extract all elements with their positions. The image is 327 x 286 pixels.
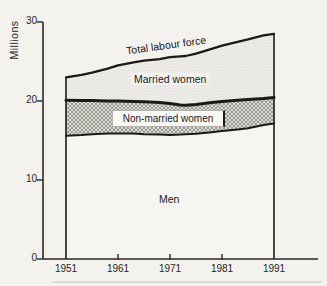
x-tick-label-1951: 1951: [48, 263, 84, 274]
y-tick-label-20: 20: [6, 94, 37, 105]
labour-force-chart: Millions 30 20 10 0 1951 1961 1971 1981 …: [0, 0, 327, 286]
y-tick-label-0: 0: [6, 252, 37, 263]
y-tick-label-30: 30: [6, 15, 37, 26]
x-tick-label-1991: 1991: [256, 263, 292, 274]
series-label-married-women: Married women: [131, 73, 209, 85]
x-tick-label-1971: 1971: [152, 263, 188, 274]
y-tick-label-10: 10: [6, 173, 37, 184]
x-tick-label-1981: 1981: [204, 263, 240, 274]
series-label-non-married-women: Non-married women: [112, 110, 225, 127]
series-label-men: Men: [159, 193, 179, 205]
scan-artifact-smudge: [52, 281, 322, 283]
x-tick-label-1961: 1961: [100, 263, 136, 274]
